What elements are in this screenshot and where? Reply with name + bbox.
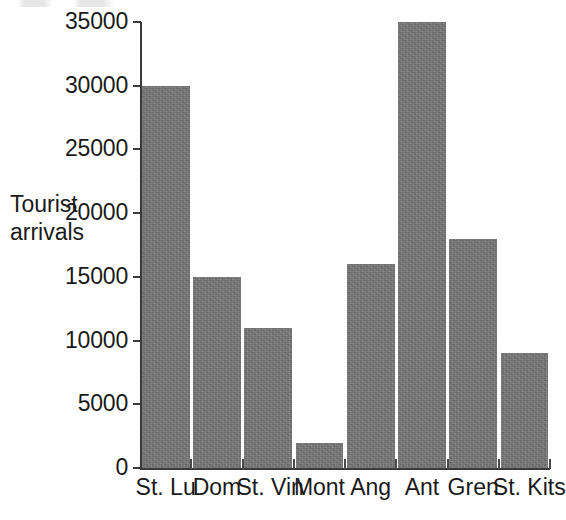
y-axis-tick-label: 10000 (28, 329, 128, 352)
x-axis-tick (498, 459, 500, 469)
x-axis-tick (447, 459, 449, 469)
x-axis-tick (549, 459, 551, 469)
y-axis-tick-label-wrap: 0 (0, 456, 128, 479)
y-axis-tick (133, 212, 141, 214)
bar (244, 328, 292, 468)
x-axis-tick (293, 459, 295, 469)
y-axis-tick (133, 148, 141, 150)
y-axis-tick-label: 25000 (28, 137, 128, 160)
category-label: St. Kits (493, 474, 556, 500)
bar (501, 353, 549, 468)
y-axis-tick (133, 403, 141, 405)
x-axis-tick (190, 459, 192, 469)
bar (398, 22, 446, 468)
y-axis-tick-label: 0 (28, 456, 128, 479)
y-axis-tick-label-wrap: 15000 (0, 265, 128, 288)
y-axis-tick (133, 340, 141, 342)
bar (296, 443, 344, 469)
y-axis-tick-label: 5000 (28, 392, 128, 415)
y-axis-tick-label-wrap: 25000 (0, 137, 128, 160)
y-axis-tick (133, 85, 141, 87)
y-axis-tick-label: 15000 (28, 265, 128, 288)
y-axis-tick-label: 20000 (28, 201, 128, 224)
bar (347, 264, 395, 468)
x-axis-tick (395, 459, 397, 469)
scan-artifact (18, 0, 128, 7)
y-axis-tick-label: 35000 (28, 10, 128, 33)
y-axis-tick-label-wrap: 20000 (0, 201, 128, 224)
y-axis-tick-label-wrap: 35000 (0, 10, 128, 33)
y-axis-tick-label-wrap: 10000 (0, 329, 128, 352)
y-axis-tick-label-wrap: 5000 (0, 392, 128, 415)
bar (449, 239, 497, 468)
x-axis-tick (344, 459, 346, 469)
y-axis-tick-label-wrap: 30000 (0, 74, 128, 97)
y-axis-tick (133, 21, 141, 23)
y-axis-tick (133, 276, 141, 278)
x-axis-tick (242, 459, 244, 469)
y-axis-tick-label: 30000 (28, 74, 128, 97)
y-axis-tick (133, 467, 141, 469)
bar (193, 277, 241, 468)
bar (142, 86, 190, 468)
